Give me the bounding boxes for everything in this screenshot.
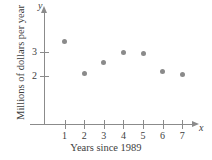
y-tick-label-2: 2 xyxy=(25,70,37,81)
data-point xyxy=(101,60,106,65)
data-point xyxy=(180,72,185,77)
x-tick-6 xyxy=(163,120,164,129)
x-tick-1 xyxy=(65,120,66,129)
data-point xyxy=(121,50,126,55)
x-tick-2 xyxy=(84,120,85,129)
x-tick-7 xyxy=(182,120,183,129)
data-point xyxy=(82,71,87,76)
y-tick-2 xyxy=(40,76,49,77)
x-axis-arrowhead xyxy=(192,121,199,127)
y-tick-label-3: 3 xyxy=(25,46,37,57)
x-tick-3 xyxy=(104,120,105,129)
scatter-plot-figure: Millions of dollars per year y x 23 1234… xyxy=(0,0,212,160)
data-point xyxy=(160,69,165,74)
y-axis-title: Millions of dollars per year xyxy=(15,0,26,129)
x-tick-4 xyxy=(123,120,124,129)
x-tick-label-5: 5 xyxy=(137,130,149,141)
x-tick-label-4: 4 xyxy=(117,130,129,141)
data-point xyxy=(62,39,67,44)
data-point xyxy=(141,51,146,56)
x-axis-line xyxy=(30,124,193,125)
y-axis-line xyxy=(44,12,45,125)
x-axis-variable-letter: x xyxy=(199,122,203,133)
x-axis-title: Years since 1989 xyxy=(0,142,212,153)
x-tick-label-1: 1 xyxy=(59,130,71,141)
x-tick-label-7: 7 xyxy=(176,130,188,141)
x-tick-label-3: 3 xyxy=(98,130,110,141)
x-tick-label-6: 6 xyxy=(157,130,169,141)
y-tick-3 xyxy=(40,52,49,53)
x-tick-label-2: 2 xyxy=(78,130,90,141)
x-tick-5 xyxy=(143,120,144,129)
y-axis-variable-letter: y xyxy=(38,0,42,11)
